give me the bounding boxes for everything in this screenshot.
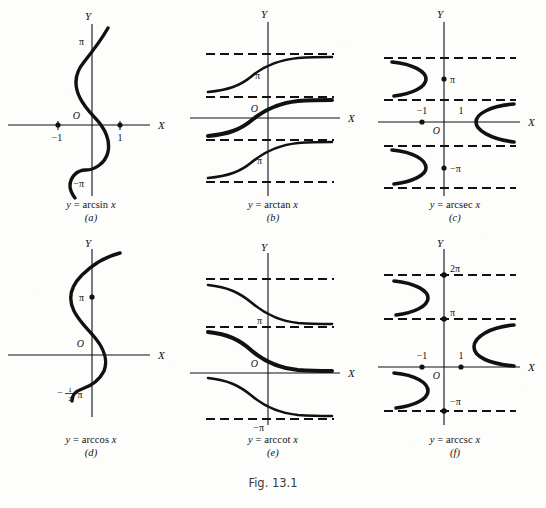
- figure-13-1: Y X O −1 1 π −π y = arcsin x: [0, 0, 546, 508]
- arcsec-branch-right: [476, 104, 514, 142]
- caption-x: x: [293, 434, 298, 445]
- plot-arccsc: Y X O 2π π −π −1 1: [364, 235, 546, 435]
- y-axis-label: Y: [261, 241, 269, 253]
- asymptote-group: [206, 279, 334, 419]
- x-ticklabel-neg1: −1: [52, 132, 63, 143]
- caption-y: y: [66, 199, 71, 210]
- caption-fn: arcsin: [83, 199, 109, 210]
- y-ticklabel-pi: π: [255, 70, 260, 81]
- panel-arccsc: Y X O 2π π −π −1 1: [364, 235, 546, 470]
- caption-y: y: [430, 434, 435, 445]
- origin-label: O: [251, 358, 258, 369]
- y-ticklabel-pi: π: [257, 315, 262, 326]
- point-marker-neg1: [55, 122, 60, 127]
- panel-arcsin: Y X O −1 1 π −π y = arcsin x: [0, 0, 182, 235]
- plot-arctan: Y X O π −π: [182, 0, 364, 200]
- point-marker-pi: [441, 316, 447, 322]
- arccsc-branch-lower-left: [394, 373, 428, 408]
- point-marker-2pi: [441, 272, 447, 278]
- caption-fn: arcsec: [446, 199, 473, 210]
- caption-y: y: [430, 199, 435, 210]
- caption-arctan: y = arctan x (b): [182, 198, 364, 224]
- y-ticklabel-negpi: −π: [450, 163, 461, 174]
- y-ticklabel-pi: π: [450, 307, 455, 318]
- point-marker-pos1: [117, 122, 122, 127]
- panel-arccot: Y X O π −π y = arccot x: [182, 235, 364, 470]
- caption-y: y: [248, 199, 253, 210]
- x-ticklabel-pos1: 1: [459, 350, 464, 361]
- arccot-branch-lower: [208, 378, 332, 416]
- caption-fn: arctan: [264, 199, 290, 210]
- caption-tag: (c): [364, 211, 546, 224]
- fraction-denominator: 2: [68, 395, 72, 403]
- origin-label: O: [433, 370, 440, 381]
- x-axis-label: X: [157, 349, 166, 361]
- y-ticklabel-pi: π: [79, 36, 84, 47]
- caption-eq: =: [74, 199, 80, 210]
- caption-arcsec: y = arcsec x (c): [364, 198, 546, 224]
- y-ticklabel-neg-half-pi: − 1 2 π: [57, 386, 82, 403]
- x-ticklabel-pos1: 1: [118, 132, 123, 143]
- panel-arcsec: Y X O π −π −1 1: [364, 0, 546, 235]
- asymptote-group: [384, 275, 516, 411]
- caption-tag: (f): [364, 446, 546, 459]
- arctan-branch-upper: [208, 57, 332, 92]
- origin-label: O: [433, 125, 440, 136]
- x-axis-label: X: [157, 119, 166, 131]
- x-ticklabel-pos1: 1: [459, 105, 464, 116]
- arccsc-branch-right: [474, 325, 514, 366]
- caption-fn: arccot: [264, 434, 290, 445]
- x-axis-label: X: [347, 112, 356, 124]
- caption-eq: =: [255, 199, 261, 210]
- panel-arctan: Y X O π −π y = arctan: [182, 0, 364, 235]
- point-marker-negpi: [441, 408, 447, 414]
- arcsec-branch-upper-left: [392, 62, 426, 96]
- y-ticklabel-negpi: −π: [253, 422, 264, 433]
- caption-arccos: y = arccos x (d): [0, 433, 182, 459]
- y-axis-label: Y: [437, 8, 445, 20]
- plot-arccot: Y X O π −π: [182, 235, 364, 435]
- panel-arccos: Y X O π − 1 2 π y = arccos: [0, 235, 182, 470]
- arccos-curve: [71, 253, 120, 401]
- arccot-branch-principal: [208, 332, 332, 371]
- caption-arccot: y = arccot x (e): [182, 433, 364, 459]
- point-marker-pi: [441, 76, 446, 81]
- caption-eq: =: [255, 434, 261, 445]
- caption-arcsin: y = arcsin x (a): [0, 198, 182, 224]
- caption-x: x: [293, 199, 298, 210]
- fraction-numerator: 1: [68, 386, 72, 394]
- plot-arccos: Y X O π − 1 2 π: [0, 235, 182, 435]
- caption-eq: =: [437, 434, 443, 445]
- y-ticklabel-pi: π: [79, 292, 84, 303]
- y-axis-label: Y: [85, 10, 93, 22]
- caption-tag: (e): [182, 446, 364, 459]
- arcsec-branch-lower-left: [392, 150, 426, 184]
- figure-caption: Fig. 13.1: [0, 476, 546, 490]
- plot-arcsec: Y X O π −π −1 1: [364, 0, 546, 200]
- caption-fn: arccos: [82, 434, 109, 445]
- arctan-branch-lower: [208, 142, 332, 178]
- x-axis-label: X: [527, 116, 536, 128]
- x-axis-label: X: [347, 367, 356, 379]
- origin-label: O: [77, 338, 84, 349]
- x-ticklabel-neg1: −1: [417, 105, 428, 116]
- arccsc-branch-upper-left: [394, 281, 428, 315]
- plot-arcsin: Y X O −1 1 π −π: [0, 0, 182, 200]
- point-marker-neg1: [419, 119, 424, 124]
- caption-eq: =: [73, 434, 79, 445]
- fraction-symbol: π: [77, 389, 82, 400]
- caption-tag: (a): [0, 211, 182, 224]
- origin-label: O: [73, 110, 80, 121]
- caption-y: y: [248, 434, 253, 445]
- origin-label: O: [251, 103, 258, 114]
- caption-arccsc: y = arccsc x (f): [364, 433, 546, 459]
- x-ticklabel-neg1: −1: [417, 350, 428, 361]
- x-axis-label: X: [527, 361, 536, 373]
- point-marker-pi: [89, 294, 94, 299]
- point-marker-negpi: [441, 165, 446, 170]
- y-axis-label: Y: [437, 237, 445, 249]
- y-ticklabel-negpi: −π: [450, 396, 461, 407]
- caption-eq: =: [437, 199, 443, 210]
- fraction-sign: −: [57, 387, 63, 398]
- caption-x: x: [111, 199, 116, 210]
